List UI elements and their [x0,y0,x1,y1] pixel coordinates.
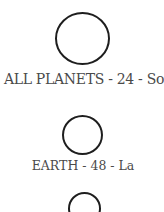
planet-list: ALL PLANETS - 24 - So EARTH - 48 - La [0,0,164,212]
circle-planet-icon[interactable] [68,192,101,212]
circle-planet-icon[interactable] [55,12,110,65]
planet-label[interactable]: EARTH - 48 - La [1,160,164,173]
planet-label[interactable]: ALL PLANETS - 24 - So [2,72,164,86]
circle-planet-icon[interactable] [62,115,103,155]
